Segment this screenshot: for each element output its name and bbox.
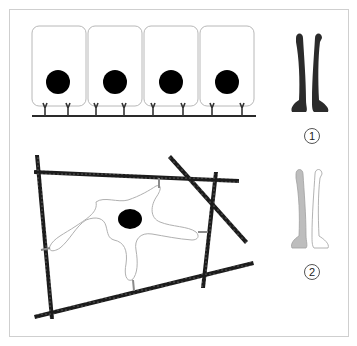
epithelial-cell <box>88 26 142 106</box>
nucleus-icon <box>159 70 183 94</box>
diagram-canvas <box>0 0 357 346</box>
nucleus-icon <box>46 70 70 94</box>
fiber <box>35 155 54 319</box>
legend-label-1: 1 <box>304 128 320 144</box>
nucleus-icon <box>118 209 142 229</box>
fiber <box>34 170 239 183</box>
nucleus-icon <box>103 70 127 94</box>
legend-label-2: 2 <box>304 264 320 280</box>
fibroblast-cell <box>50 186 198 281</box>
structure-1-icon <box>291 34 328 113</box>
epithelial-cell <box>144 26 198 106</box>
epithelial-layer <box>32 26 256 116</box>
structure-2-icon <box>291 170 328 249</box>
nucleus-icon <box>215 70 239 94</box>
diagram-stage: 1 2 <box>0 0 357 346</box>
fiber <box>34 261 254 319</box>
epithelial-cell <box>200 26 254 106</box>
epithelial-cell <box>32 26 86 106</box>
